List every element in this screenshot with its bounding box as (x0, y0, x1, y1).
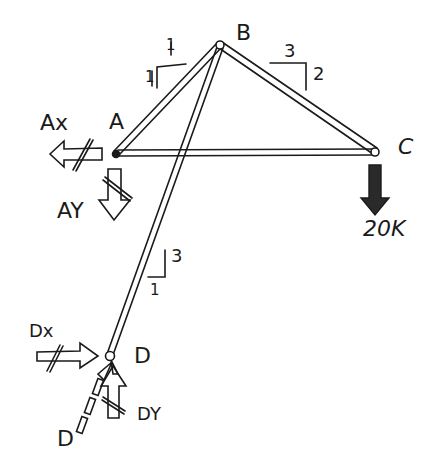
slope-bc-run-label: 3 (284, 42, 295, 60)
truss-diagram: A B C D 1 1 3 2 3 1 Ax AY Dx DY D 20K (0, 0, 437, 475)
node-label-d: D (134, 345, 151, 367)
member-ac (118, 149, 373, 156)
load-20k-label: 20K (363, 218, 405, 240)
reaction-ax-arrow (50, 139, 102, 171)
slope-bd-rise-label: 3 (171, 247, 182, 265)
node-d (106, 352, 115, 361)
member-ab (114, 42, 222, 155)
slope-ab-rise-label: 1 (166, 38, 176, 53)
reaction-dy-label: DY (137, 405, 161, 423)
load-20k-arrow (361, 165, 389, 215)
member-bc (219, 42, 377, 154)
reaction-dx-label: Dx (29, 322, 54, 340)
reaction-dx-arrow (37, 343, 98, 372)
slope-ab-run-label: 1 (145, 70, 155, 85)
reaction-ay-arrow (99, 169, 132, 220)
slope-bd-run-label: 1 (150, 283, 160, 298)
reaction-ax-label: Ax (40, 112, 68, 134)
reaction-ay-label: AY (57, 200, 84, 222)
node-a (113, 151, 120, 158)
node-label-b: B (236, 22, 251, 44)
node-label-c: C (398, 136, 413, 158)
reaction-d-label: D (57, 428, 74, 450)
reaction-d-arrow (76, 360, 118, 434)
node-b (216, 41, 224, 49)
slope-bc-rise-label: 2 (313, 65, 324, 83)
node-label-a: A (109, 111, 124, 133)
node-c (371, 148, 379, 156)
member-bd (107, 47, 223, 355)
slope-marker-bd (148, 250, 165, 277)
